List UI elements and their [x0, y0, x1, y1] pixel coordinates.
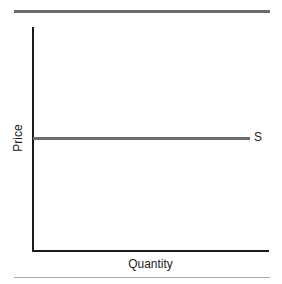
bottom-divider-rule — [14, 277, 270, 278]
supply-curve-line — [33, 137, 250, 140]
y-axis-label: Price — [11, 118, 25, 158]
x-axis — [32, 250, 269, 252]
top-divider-rule — [14, 10, 270, 13]
supply-curve-label: S — [254, 130, 262, 144]
x-axis-label: Quantity — [32, 257, 269, 271]
